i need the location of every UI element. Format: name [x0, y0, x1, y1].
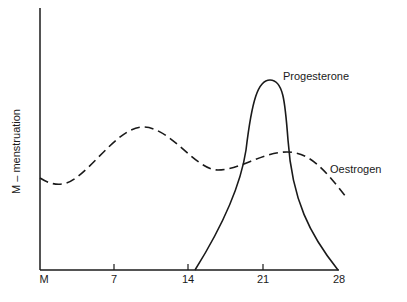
x-tick-label-14: 14	[182, 273, 194, 285]
progesterone-label: Progesterone	[283, 70, 349, 82]
oestrogen-curve	[40, 127, 346, 197]
x-tick-label-7: 7	[111, 273, 117, 285]
x-tick-label-28: 28	[333, 273, 345, 285]
x-tick-label-m: M	[39, 273, 48, 285]
y-axis-label: M – menstruation	[10, 109, 22, 194]
progesterone-curve	[195, 80, 338, 270]
oestrogen-label: Oestrogen	[330, 163, 381, 175]
x-tick-label-21: 21	[257, 273, 269, 285]
chart-plot	[0, 0, 407, 302]
